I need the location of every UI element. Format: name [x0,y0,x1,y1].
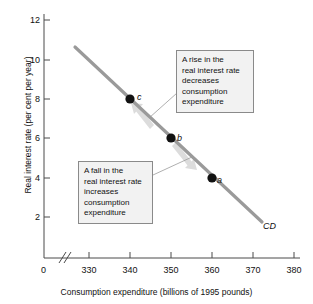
origin-label: 0 [41,266,46,275]
point-label-b: b [177,134,182,143]
x-tick-label-360: 360 [199,266,225,275]
leader-line-rise [149,93,177,118]
cd-curve-label: CD [263,222,276,231]
annotation-fall-box: A fall in the real interest rate increas… [78,161,153,224]
x-axis-ticks [89,252,294,258]
leader-line-fall [153,157,192,175]
data-point-c[interactable] [125,94,134,103]
x-tick-label-380: 380 [281,266,307,275]
x-tick-label-350: 350 [158,266,184,275]
plot-area [0,0,313,304]
point-label-c: c [137,93,142,102]
y-axis-ticks [44,20,50,217]
x-axis-title: Consumption expenditure (billions of 199… [0,287,313,297]
x-tick-label-370: 370 [240,266,266,275]
x-tick-label-340: 340 [117,266,143,275]
chart-figure: 12 10 8 6 4 2 0 330 340 350 360 370 380 … [0,0,313,304]
y-tick-label-12: 12 [22,16,40,25]
annotation-rise-box: A rise in the real interest rate decreas… [176,50,254,113]
data-point-a[interactable] [207,173,216,182]
x-tick-label-330: 330 [76,266,102,275]
data-point-b[interactable] [166,133,175,142]
y-tick-label-2: 2 [22,213,40,222]
point-label-a: a [217,176,222,185]
y-axis-title: Real interest rate (per cent per year) [23,45,33,205]
